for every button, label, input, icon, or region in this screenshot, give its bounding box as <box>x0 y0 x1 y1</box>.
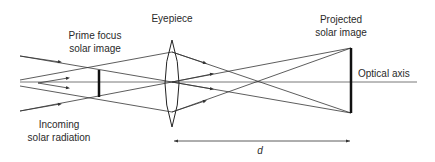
optics-diagram: Eyepiece Prime focus solar image Project… <box>0 0 435 162</box>
optical-axis-label: Optical axis <box>358 68 410 79</box>
eyepiece-label: Eyepiece <box>151 13 193 24</box>
incoming-label-line1: Incoming <box>39 119 80 130</box>
distance-label: d <box>257 145 263 156</box>
prime-focus-label-line2: solar image <box>69 43 121 54</box>
outgoing-rays <box>172 48 351 113</box>
incoming-label-line2: solar radiation <box>28 132 91 143</box>
projected-label-line1: Projected <box>320 14 362 25</box>
prime-focus-label-line1: Prime focus <box>69 30 122 41</box>
projected-label-line2: solar image <box>315 27 367 38</box>
